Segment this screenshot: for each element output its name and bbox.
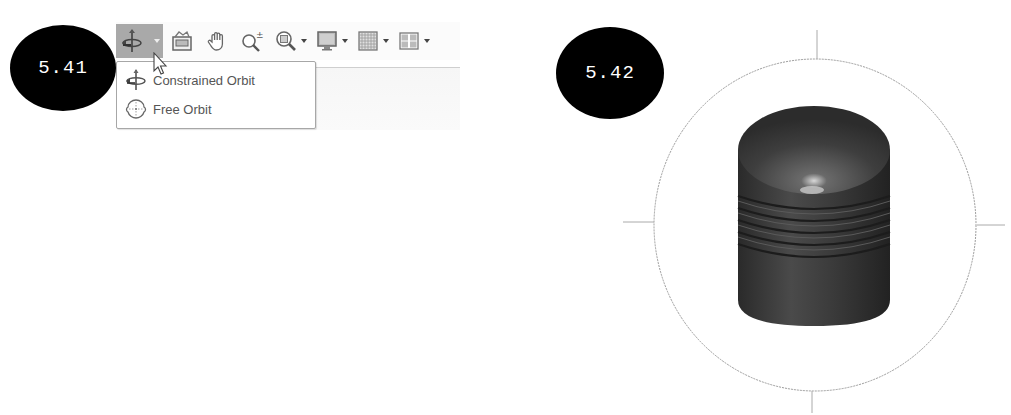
zoom-window-button[interactable] — [271, 24, 310, 58]
free-orbit-icon — [121, 98, 151, 120]
grid-settings-button[interactable] — [353, 24, 392, 58]
menu-item-constrained-orbit[interactable]: Constrained Orbit — [117, 66, 315, 94]
knob-model — [738, 106, 890, 326]
chevron-down-icon[interactable] — [154, 39, 160, 43]
display-settings-button[interactable] — [312, 24, 351, 58]
viewports-button[interactable] — [394, 24, 433, 58]
pan-button[interactable] — [203, 24, 233, 58]
zoom-button[interactable]: ± — [237, 24, 267, 58]
viewports-icon — [397, 29, 421, 53]
zoom-plusminus-icon: ± — [240, 29, 264, 53]
view-face-icon — [170, 29, 194, 53]
monitor-icon — [315, 29, 339, 53]
zoom-window-icon — [274, 29, 298, 53]
mouse-cursor-icon — [151, 52, 171, 78]
menu-item-label: Free Orbit — [153, 102, 212, 117]
chevron-down-icon[interactable] — [383, 39, 389, 43]
orbit-icon — [119, 28, 145, 54]
3d-viewport[interactable] — [600, 0, 1011, 415]
orbit-dropdown-menu: Constrained Orbit Free Orbit — [116, 61, 316, 129]
constrained-orbit-icon — [121, 69, 151, 91]
chevron-down-icon[interactable] — [424, 39, 430, 43]
grid-icon — [356, 29, 380, 53]
panel-background — [300, 67, 460, 130]
svg-text:±: ± — [256, 30, 264, 40]
hand-pan-icon — [206, 29, 230, 53]
figure-label-text: 5.41 — [38, 57, 88, 79]
chevron-down-icon[interactable] — [301, 39, 307, 43]
figure-label-5-41: 5.41 — [10, 25, 116, 111]
view-face-button[interactable] — [167, 24, 197, 58]
chevron-down-icon[interactable] — [342, 39, 348, 43]
menu-item-free-orbit[interactable]: Free Orbit — [117, 94, 315, 124]
